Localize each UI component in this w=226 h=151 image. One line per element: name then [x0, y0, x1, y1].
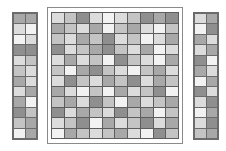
heatmap-cell: [103, 87, 115, 97]
heatmap-cell: [141, 34, 153, 44]
heatmap-cell: [14, 56, 25, 65]
heatmap-cell: [207, 87, 218, 96]
heatmap-cell: [14, 66, 25, 75]
heatmap-cell: [77, 45, 89, 55]
heatmap-cell: [115, 118, 127, 128]
heatmap-cell: [207, 129, 218, 138]
heatmap-cell: [115, 34, 127, 44]
right-annotation-grid: [194, 13, 218, 139]
heatmap-cell: [14, 14, 25, 23]
heatmap-cell: [115, 66, 127, 76]
heatmap-cell: [65, 97, 77, 107]
heatmap-cell: [128, 87, 140, 97]
heatmap-cell: [166, 45, 178, 55]
heatmap-cell: [77, 87, 89, 97]
heatmap-cell: [207, 108, 218, 117]
center-matrix-grid: [51, 12, 179, 139]
heatmap-cell: [65, 34, 77, 44]
heatmap-cell: [128, 66, 140, 76]
heatmap-cell: [154, 13, 166, 23]
heatmap-cell: [52, 108, 64, 118]
heatmap-cell: [207, 56, 218, 65]
heatmap-cell: [90, 34, 102, 44]
heatmap-cell: [195, 87, 206, 96]
heatmap-cell: [154, 97, 166, 107]
heatmap-cell: [128, 76, 140, 86]
heatmap-cell: [65, 108, 77, 118]
heatmap-cell: [154, 24, 166, 34]
heatmap-cell: [52, 55, 64, 65]
heatmap-cell: [90, 76, 102, 86]
heatmap-cell: [90, 45, 102, 55]
heatmap-cell: [52, 97, 64, 107]
heatmap-cell: [90, 97, 102, 107]
heatmap-cell: [26, 56, 37, 65]
heatmap-cell: [26, 35, 37, 44]
heatmap-cell: [77, 118, 89, 128]
heatmap-cell: [207, 45, 218, 54]
heatmap-cell: [195, 118, 206, 127]
left-annotation-bar[interactable]: [12, 12, 38, 140]
heatmap-cell: [52, 13, 64, 23]
heatmap-cell: [115, 76, 127, 86]
heatmap-cell: [141, 13, 153, 23]
heatmap-cell: [26, 87, 37, 96]
heatmap-cell: [128, 118, 140, 128]
heatmap-cell: [14, 129, 25, 138]
heatmap-cell: [166, 55, 178, 65]
heatmap-cell: [77, 108, 89, 118]
right-annotation-bar[interactable]: [193, 12, 219, 140]
heatmap-cell: [90, 13, 102, 23]
heatmap-cell: [26, 14, 37, 23]
heatmap-cell: [77, 34, 89, 44]
heatmap-cell: [14, 118, 25, 127]
heatmap-cell: [166, 87, 178, 97]
heatmap-cell: [166, 24, 178, 34]
heatmap-cell: [77, 76, 89, 86]
heatmap-cell: [154, 45, 166, 55]
left-annotation-grid: [13, 13, 37, 139]
heatmap-cell: [77, 129, 89, 139]
heatmap-cell: [154, 129, 166, 139]
heatmap-cell: [65, 87, 77, 97]
heatmap-cell: [103, 13, 115, 23]
heatmap-cell: [115, 24, 127, 34]
heatmap-cell: [166, 108, 178, 118]
heatmap-cell: [195, 45, 206, 54]
heatmap-cell: [195, 108, 206, 117]
heatmap-cell: [26, 77, 37, 86]
heatmap-cell: [77, 55, 89, 65]
center-matrix-panel[interactable]: [47, 7, 183, 144]
heatmap-cell: [14, 24, 25, 33]
heatmap-cell: [77, 66, 89, 76]
heatmap-cell: [65, 76, 77, 86]
heatmap-cell: [65, 118, 77, 128]
heatmap-cell: [52, 129, 64, 139]
heatmap-cell: [103, 76, 115, 86]
heatmap-cell: [141, 87, 153, 97]
heatmap-cell: [103, 108, 115, 118]
heatmap-cell: [141, 66, 153, 76]
heatmap-cell: [26, 129, 37, 138]
heatmap-cell: [207, 35, 218, 44]
heatmap-cell: [14, 77, 25, 86]
heatmap-cell: [65, 129, 77, 139]
heatmap-cell: [115, 55, 127, 65]
heatmap-cell: [115, 13, 127, 23]
heatmap-cell: [166, 13, 178, 23]
heatmap-cell: [195, 56, 206, 65]
heatmap-cell: [103, 118, 115, 128]
heatmap-cell: [115, 129, 127, 139]
heatmap-cell: [26, 66, 37, 75]
heatmap-cell: [154, 76, 166, 86]
heatmap-cell: [154, 55, 166, 65]
heatmap-cell: [65, 55, 77, 65]
heatmap-cell: [26, 108, 37, 117]
heatmap-cell: [90, 24, 102, 34]
heatmap-cell: [128, 55, 140, 65]
heatmap-cell: [195, 35, 206, 44]
heatmap-cell: [77, 24, 89, 34]
heatmap-cell: [195, 24, 206, 33]
heatmap-cell: [154, 34, 166, 44]
heatmap-cell: [195, 77, 206, 86]
